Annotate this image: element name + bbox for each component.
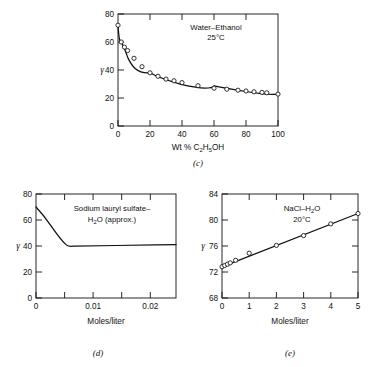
panel-d-svg: 0 20 40 60 80 0 0.01 0.02 γ Moles/liter … — [6, 178, 188, 364]
y-tick-label: 40 — [105, 66, 115, 75]
data-point — [260, 90, 264, 94]
data-point — [156, 74, 160, 78]
panel-c-svg: 0 20 40 60 80 0 20 40 60 80 100 — [96, 4, 296, 170]
y-axis-title-c: γ — [100, 65, 104, 75]
data-point — [196, 84, 200, 88]
y-axis-title-e: γ — [201, 241, 205, 251]
x-tick-label: 0 — [116, 130, 121, 139]
data-markers-c — [116, 23, 280, 96]
data-point — [234, 258, 238, 262]
subfigure-label-d: (d) — [93, 348, 104, 358]
data-point — [244, 89, 248, 93]
x-axis-title-d: Moles/liter — [87, 317, 125, 326]
x-tick-label: 80 — [241, 130, 251, 139]
data-point — [356, 211, 360, 215]
y-axis-title-d: γ — [16, 241, 20, 251]
x-tick-label: 3 — [301, 302, 306, 311]
x-tick-label: 0.01 — [85, 302, 101, 311]
subfigure-label-e: (e) — [285, 348, 295, 358]
y-tick-labels-d: 0 20 40 60 80 — [23, 190, 33, 303]
y-tick-label: 0 — [27, 294, 32, 303]
annotation-line2-c: 25°C — [207, 33, 225, 42]
y-tick-label: 80 — [105, 10, 115, 19]
data-point — [132, 56, 136, 60]
data-point — [212, 86, 216, 90]
x-tick-label: 0 — [34, 302, 39, 311]
data-point — [122, 45, 126, 49]
data-point — [265, 91, 269, 95]
y-tick-label: 60 — [23, 216, 33, 225]
data-fit-line-e — [222, 214, 358, 267]
x-tick-label: 100 — [271, 130, 285, 139]
annotation-line1-c: Water–Ethanol — [190, 23, 242, 32]
x-tick-label: 2 — [274, 302, 279, 311]
panel-nacl-water: 68 72 76 80 84 0 1 2 3 4 5 γ Moles/ — [190, 178, 372, 364]
annotation-line1-e: NaCl–H2O — [284, 204, 321, 214]
x-tick-label: 40 — [177, 130, 187, 139]
y-tick-label: 76 — [209, 242, 219, 251]
data-point — [228, 261, 232, 265]
annotation-line2-e: 20°C — [293, 215, 311, 224]
x-tick-labels-d: 0 0.01 0.02 — [34, 302, 159, 311]
x-tick-label: 5 — [356, 302, 361, 311]
y-tick-label: 80 — [209, 216, 219, 225]
data-point — [236, 88, 240, 92]
x-tick-label: 4 — [329, 302, 334, 311]
data-point — [180, 81, 184, 85]
data-point — [252, 90, 256, 94]
data-point — [116, 23, 120, 27]
x-tick-label: 60 — [209, 130, 219, 139]
data-point — [329, 222, 333, 226]
y-tick-label: 60 — [105, 38, 115, 47]
data-point — [225, 87, 229, 91]
panel-sodium-lauryl-sulfate: 0 20 40 60 80 0 0.01 0.02 γ Moles/liter … — [6, 178, 188, 364]
data-point — [274, 243, 278, 247]
y-tick-label: 84 — [209, 190, 219, 199]
data-point — [140, 65, 144, 69]
data-point — [302, 234, 306, 238]
y-tick-label: 20 — [105, 94, 115, 103]
y-tick-label: 72 — [209, 268, 219, 277]
x-tick-label: 20 — [145, 130, 155, 139]
data-point — [172, 79, 176, 83]
x-axis-title-e: Moles/liter — [271, 317, 309, 326]
panel-water-ethanol: 0 20 40 60 80 0 20 40 60 80 100 — [96, 4, 296, 170]
y-tick-labels-e: 68 72 76 80 84 — [209, 190, 219, 303]
panel-e-svg: 68 72 76 80 84 0 1 2 3 4 5 γ Moles/ — [190, 178, 372, 364]
data-point — [276, 92, 280, 96]
y-tick-label: 40 — [23, 242, 33, 251]
data-point — [164, 77, 168, 81]
x-tick-label: 0 — [220, 302, 225, 311]
y-tick-label: 0 — [109, 122, 114, 131]
x-axis-title-c: Wt % C2H5OH — [172, 143, 225, 153]
y-tick-label: 80 — [23, 190, 33, 199]
y-tick-label: 20 — [23, 268, 33, 277]
data-point — [148, 71, 152, 75]
data-point — [126, 49, 130, 53]
subfigure-label-c: (c) — [193, 158, 203, 168]
x-tick-label: 1 — [247, 302, 252, 311]
x-tick-labels-c: 0 20 40 60 80 100 — [116, 130, 286, 139]
data-point — [119, 40, 123, 44]
y-tick-labels-c: 0 20 40 60 80 — [105, 10, 115, 131]
y-tick-label: 68 — [209, 294, 219, 303]
x-tick-label: 0.02 — [142, 302, 158, 311]
x-tick-labels-e: 0 1 2 3 4 5 — [220, 302, 361, 311]
data-point — [247, 251, 251, 255]
annotation-line2-d: H2O (approx.) — [88, 215, 137, 225]
annotation-line1-d: Sodium lauryl sulfate– — [74, 204, 151, 213]
